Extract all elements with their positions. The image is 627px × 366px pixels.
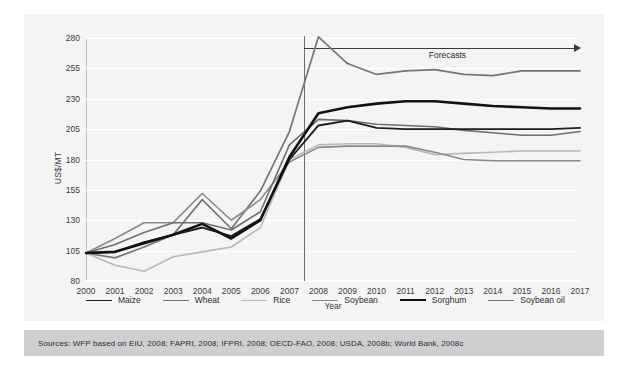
legend-item-rice[interactable]: Rice	[241, 295, 290, 305]
legend-label: Sorghum	[432, 295, 467, 305]
y-tick-label: 105	[66, 246, 80, 256]
gridline	[86, 281, 580, 282]
y-tick-label: 155	[66, 185, 80, 195]
legend-item-soybean[interactable]: Soybean	[312, 295, 378, 305]
sources-banner: Sources: WFP based on EIU, 2008; FAPRI, …	[24, 330, 604, 356]
y-tick-label: 205	[66, 124, 80, 134]
plot-area: 80105130155180205230255280 2000200120022…	[86, 38, 580, 281]
legend-label: Maize	[118, 295, 141, 305]
legend-swatch-icon	[241, 300, 267, 301]
series-lines	[86, 38, 580, 281]
legend-label: Wheat	[195, 295, 220, 305]
y-tick-label: 255	[66, 63, 80, 73]
chart-page: US$/MT 80105130155180205230255280 200020…	[0, 0, 627, 366]
y-tick-label: 130	[66, 215, 80, 225]
page-top-strip	[0, 0, 627, 10]
series-line-rice	[86, 144, 580, 272]
series-line-maize	[86, 121, 580, 253]
y-tick-label: 280	[66, 33, 80, 43]
legend-swatch-icon	[86, 300, 112, 301]
legend-label: Soybean	[344, 295, 378, 305]
series-line-soybean	[86, 146, 580, 253]
y-axis-label: US$/MT	[53, 151, 63, 183]
legend-item-maize[interactable]: Maize	[86, 295, 141, 305]
series-line-wheat	[86, 119, 580, 253]
legend-label: Rice	[273, 295, 290, 305]
legend-swatch-icon	[163, 300, 189, 301]
chart-legend: MaizeWheatRiceSoybeanSorghumSoybean oil	[86, 292, 606, 308]
legend-item-wheat[interactable]: Wheat	[163, 295, 220, 305]
y-tick-label: 80	[71, 276, 80, 286]
figure-panel: US$/MT 80105130155180205230255280 200020…	[24, 14, 604, 321]
legend-item-soybean-oil[interactable]: Soybean oil	[488, 295, 564, 305]
y-tick-label: 230	[66, 94, 80, 104]
legend-item-sorghum[interactable]: Sorghum	[400, 295, 467, 305]
legend-swatch-icon	[488, 300, 514, 301]
legend-swatch-icon	[400, 299, 426, 301]
y-tick-label: 180	[66, 155, 80, 165]
legend-swatch-icon	[312, 300, 338, 301]
legend-label: Soybean oil	[520, 295, 564, 305]
sources-text: Sources: WFP based on EIU, 2008; FAPRI, …	[24, 339, 464, 348]
